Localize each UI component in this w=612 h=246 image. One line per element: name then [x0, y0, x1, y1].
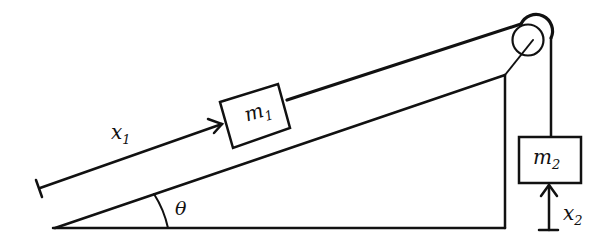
label-x2-base: x [563, 201, 574, 225]
incline-pulley-drawing [0, 0, 612, 246]
label-x2-sub: 2 [574, 213, 582, 228]
angle-arc [154, 194, 168, 228]
rope-incline [287, 24, 521, 100]
pulley-wheel [513, 25, 544, 56]
label-x1-sub: 1 [122, 132, 130, 147]
label-m2-base: m [533, 145, 552, 169]
x1-arrow-shaft [40, 124, 222, 188]
label-m1: m1 [242, 97, 274, 124]
pulley-bracket [505, 40, 533, 75]
label-x2: x2 [563, 203, 583, 223]
label-x1: x1 [111, 122, 131, 142]
diagram-canvas: m1 m2 x1 x2 θ [0, 0, 612, 246]
label-theta: θ [175, 199, 186, 218]
label-m2-sub: 2 [552, 157, 560, 172]
label-x1-base: x [111, 120, 122, 144]
label-m2: m2 [533, 147, 560, 167]
